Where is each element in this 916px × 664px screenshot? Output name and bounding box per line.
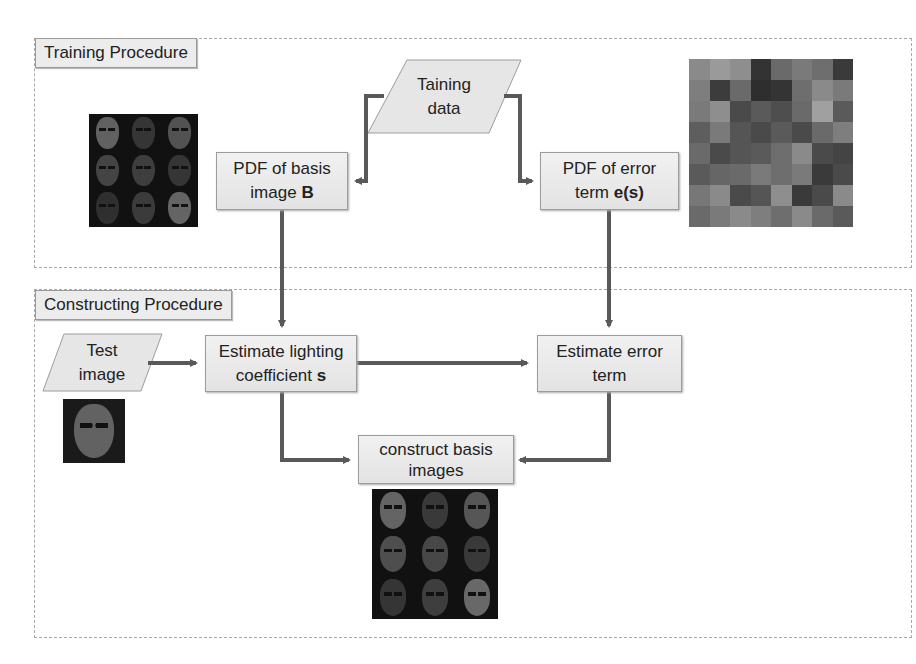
estimate-error-line1: Estimate error	[556, 340, 663, 364]
pdf-error-line1: PDF of error	[563, 157, 657, 181]
pdf-basis-image-box: PDF of basis image B	[216, 152, 348, 210]
face-thumbnail	[372, 532, 414, 575]
construct-line2: images	[409, 460, 464, 481]
training-data-line2: data	[427, 97, 460, 121]
face-thumbnail	[414, 532, 456, 575]
test-image-line1: Test	[86, 339, 117, 363]
face-thumbnail	[89, 114, 125, 152]
estimate-lighting-line2: coefficient	[236, 366, 317, 385]
face-thumbnail	[125, 189, 161, 227]
training-data-node: Taining data	[384, 60, 504, 133]
construct-line1: construct basis	[379, 439, 492, 460]
face-thumbnail	[162, 114, 198, 152]
pdf-basis-line2: image	[250, 183, 301, 202]
constructed-basis-images-grid	[372, 489, 498, 619]
estimate-lighting-line1: Estimate lighting	[219, 340, 344, 364]
face-thumbnail	[125, 114, 161, 152]
estimate-error-line2: term	[593, 364, 627, 388]
face-thumbnail	[456, 532, 498, 575]
face-thumbnail	[89, 189, 125, 227]
face-thumbnail	[414, 489, 456, 532]
pdf-error-line2: term	[575, 183, 614, 202]
construct-basis-box: construct basis images	[358, 435, 514, 484]
training-data-line1: Taining	[417, 73, 471, 97]
face-thumbnail	[125, 152, 161, 190]
basis-images-grid	[89, 114, 198, 227]
face-thumbnail	[162, 152, 198, 190]
face-thumbnail	[372, 576, 414, 619]
face-thumbnail	[162, 189, 198, 227]
face-thumbnail	[372, 489, 414, 532]
face-thumbnail	[63, 399, 125, 463]
basis-symbol-b: B	[301, 183, 313, 202]
error-symbol-es: e(s)	[614, 183, 644, 202]
face-thumbnail	[456, 489, 498, 532]
face-thumbnail	[456, 576, 498, 619]
estimate-lighting-box: Estimate lighting coefficient s	[205, 335, 357, 392]
lighting-symbol-s: s	[317, 366, 326, 385]
pdf-basis-line1: PDF of basis	[233, 157, 330, 181]
test-image-line2: image	[79, 363, 125, 387]
face-thumbnail	[89, 152, 125, 190]
estimate-error-box: Estimate error term	[537, 335, 682, 392]
error-term-images-grid	[689, 59, 853, 227]
pdf-error-term-box: PDF of error term e(s)	[540, 152, 679, 210]
test-image-node: Test image	[52, 334, 152, 391]
face-thumbnail	[414, 576, 456, 619]
test-face-image	[63, 399, 125, 463]
